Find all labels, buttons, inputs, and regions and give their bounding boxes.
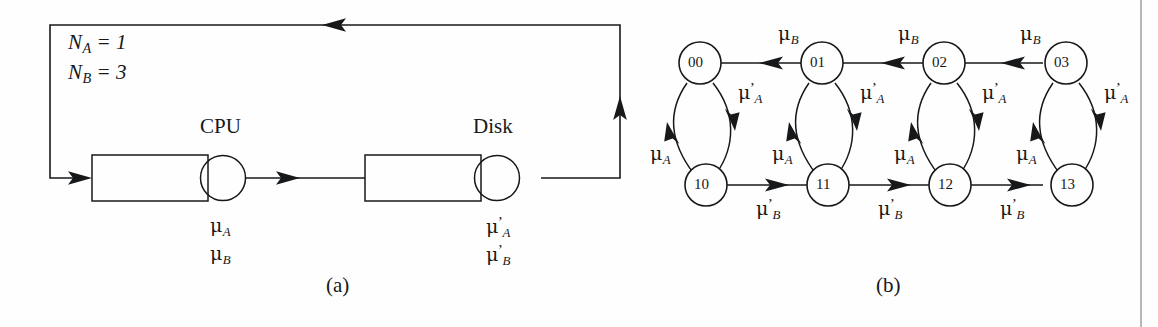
- edge-02-to-12-curve: [957, 83, 975, 174]
- mu-subscript: B: [791, 32, 799, 47]
- cpu-rate-mu-a-subscript: A: [223, 224, 231, 239]
- population-na-symbol: N: [68, 30, 82, 54]
- edge-11-to-01-curve: [796, 83, 816, 174]
- disk-rate-mu-b-prime: μ’B: [486, 242, 510, 268]
- cpu-rate-mu-b-symbol: μ: [210, 242, 222, 264]
- mu-subscript: A: [907, 152, 915, 167]
- mu-symbol: μ: [878, 197, 890, 219]
- population-label-na: NA = 1: [68, 32, 126, 55]
- mu-subscript: A: [663, 152, 671, 167]
- mu-symbol: μ: [1020, 22, 1032, 44]
- edge-label-mu-b-prime-10-11: μ’B: [756, 196, 780, 222]
- down-curve-arrowheads: [725, 108, 1106, 131]
- edge-label-mu-a-prime-00-10: μ’A: [738, 80, 762, 106]
- disk-rate-mu-a-symbol: μ: [486, 215, 498, 237]
- cpu-station-label: CPU: [200, 116, 241, 137]
- figure-vector-layer: [0, 0, 1158, 327]
- caption-panel-a: (a): [326, 275, 349, 296]
- disk-rate-mu-b-subscript: B: [502, 253, 510, 268]
- node-label-10: 10: [694, 177, 709, 192]
- state-node-circles: [679, 42, 1093, 206]
- mu-subscript: A: [785, 152, 793, 167]
- node-label-11: 11: [816, 177, 830, 192]
- cpu-rate-mu-a-symbol: μ: [210, 214, 222, 236]
- mu-symbol: μ: [1104, 81, 1116, 103]
- cpu-rate-mu-a: μA: [210, 216, 231, 239]
- mu-subscript: A: [998, 91, 1006, 106]
- mu-symbol: μ: [772, 142, 784, 164]
- mu-subscript: B: [1016, 207, 1024, 222]
- mu-subscript: B: [772, 207, 780, 222]
- edge-label-mu-a-12-02: μA: [894, 144, 915, 167]
- mu-symbol: μ: [778, 22, 790, 44]
- mu-subscript: B: [911, 32, 919, 47]
- population-na-subscript: A: [83, 40, 92, 56]
- mu-symbol: μ: [860, 81, 872, 103]
- edge-label-mu-a-prime-01-11: μ’A: [860, 80, 884, 106]
- edge-03-to-13-curve: [1079, 83, 1097, 174]
- edge-label-mu-a-prime-02-12: μ’A: [982, 80, 1006, 106]
- edge-label-mu-b-prime-11-12: μ’B: [878, 196, 902, 222]
- mu-subscript: B: [1033, 32, 1041, 47]
- mu-symbol: μ: [738, 81, 750, 103]
- page-edge-line: [1140, 0, 1142, 327]
- edge-label-mu-a-10-00: μA: [650, 144, 671, 167]
- panel-b-state-diagram: [664, 42, 1105, 206]
- edge-label-mu-a-13-03: μA: [1016, 144, 1037, 167]
- mu-symbol: μ: [894, 142, 906, 164]
- edge-label-mu-b-02-01: μB: [898, 24, 919, 47]
- mu-symbol: μ: [650, 142, 662, 164]
- mu-symbol: μ: [1016, 142, 1028, 164]
- disk-rate-mu-b-symbol: μ: [486, 243, 498, 265]
- disk-station-label: Disk: [473, 116, 513, 137]
- population-nb-symbol: N: [68, 60, 82, 84]
- edge-01-to-11-curve: [835, 83, 853, 174]
- mu-symbol: μ: [898, 22, 910, 44]
- node-label-12: 12: [938, 177, 953, 192]
- disk-rate-mu-a-subscript: A: [502, 225, 510, 240]
- mu-symbol: μ: [1000, 197, 1012, 219]
- mu-subscript: A: [1029, 152, 1037, 167]
- mu-subscript: A: [876, 91, 884, 106]
- edge-label-mu-b-01-00: μB: [778, 24, 799, 47]
- edge-label-mu-b-03-02: μB: [1020, 24, 1041, 47]
- edge-label-mu-a-prime-03-13: μ’A: [1104, 80, 1128, 106]
- edge-10-to-00-curve: [674, 83, 694, 174]
- node-label-13: 13: [1060, 177, 1075, 192]
- figure-root: NA = 1 NB = 3 CPU Disk μA μB μ’A μ’B (a)…: [0, 0, 1158, 327]
- mu-symbol: μ: [982, 81, 994, 103]
- node-label-03: 03: [1054, 55, 1069, 70]
- mu-subscript: B: [894, 207, 902, 222]
- disk-rate-mu-a-prime: μ’A: [486, 214, 510, 240]
- mu-subscript: A: [754, 91, 762, 106]
- mu-subscript: A: [1120, 91, 1128, 106]
- population-label-nb: NB = 3: [68, 62, 126, 85]
- node-label-02: 02: [932, 55, 947, 70]
- population-na-value: = 1: [96, 30, 126, 54]
- cpu-rate-mu-b: μB: [210, 244, 231, 267]
- node-label-00: 00: [688, 55, 703, 70]
- caption-panel-b: (b): [876, 275, 901, 296]
- population-nb-subscript: B: [83, 70, 92, 86]
- edge-12-to-02-curve: [918, 83, 938, 174]
- panel-a-network: [50, 18, 627, 201]
- edge-label-mu-a-11-01: μA: [772, 144, 793, 167]
- population-nb-value: = 3: [96, 60, 126, 84]
- edge-label-mu-b-prime-12-13: μ’B: [1000, 196, 1024, 222]
- edge-00-to-10-curve: [713, 83, 731, 174]
- cpu-rate-mu-b-subscript: B: [223, 252, 231, 267]
- edge-13-to-03-curve: [1040, 83, 1060, 174]
- node-label-01: 01: [810, 55, 825, 70]
- cpu-queue-box: [92, 155, 208, 201]
- disk-queue-box: [365, 155, 481, 201]
- mu-symbol: μ: [756, 197, 768, 219]
